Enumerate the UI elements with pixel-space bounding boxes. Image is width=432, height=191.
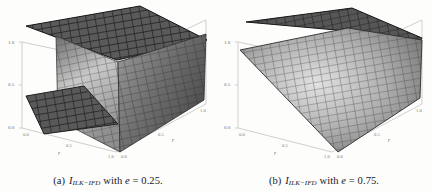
surface-plot-b: 1.0 0.5 0.0 0.0 0.5 1.0 r 0.0: [216, 0, 432, 160]
y-tick-label: 0.0: [121, 154, 127, 159]
x-axis-b: 0.0 0.5 1.0 r: [239, 132, 330, 159]
caption-tag: (b): [269, 175, 282, 186]
y-axis-label: r: [388, 137, 391, 143]
caption-with: with: [320, 175, 339, 186]
x-tick-label: 0.5: [66, 143, 72, 148]
caption-param-value: 0.25: [141, 175, 160, 186]
z-axis-b: 1.0 0.5 0.0: [224, 40, 238, 130]
plot-svg-b: 1.0 0.5 0.0 0.0 0.5 1.0 r 0.0: [216, 0, 432, 160]
y-tick-label: 0.5: [158, 132, 164, 137]
panel-caption-b: (b) IILK−IFD with e = 0.75.: [216, 175, 432, 187]
z-axis-a: 1.0 0.5 0.0: [8, 40, 22, 130]
caption-symbol: IILK−IFD: [68, 175, 101, 186]
x-axis-label: r: [274, 150, 277, 156]
x-tick-label: 0.0: [23, 132, 29, 137]
caption-with: with: [103, 175, 122, 186]
figure-row: 1.0 0.5 0.0 0.0 0.5 1.0 r 0.0: [0, 0, 432, 191]
z-tick-label: 0.5: [224, 82, 231, 87]
z-tick-label: 1.0: [8, 40, 15, 45]
z-tick-label: 1.0: [224, 40, 231, 45]
caption-period: .: [376, 175, 379, 186]
x-tick-label: 0.5: [282, 143, 288, 148]
figure-panel-a: 1.0 0.5 0.0 0.0 0.5 1.0 r 0.0: [0, 0, 216, 191]
caption-param-name: e: [125, 175, 130, 186]
y-tick-label: 0.0: [337, 154, 343, 159]
caption-param-name: e: [341, 175, 346, 186]
x-tick-label: 1.0: [324, 154, 330, 159]
caption-equals: =: [133, 175, 139, 186]
caption-period: .: [160, 175, 163, 186]
y-axis-label: r: [172, 137, 175, 143]
x-tick-label: 0.0: [239, 132, 245, 137]
caption-param-value: 0.75: [358, 175, 377, 186]
x-tick-label: 1.0: [108, 154, 114, 159]
y-tick-label: 0.5: [374, 132, 380, 137]
caption-tag: (a): [53, 175, 65, 186]
y-tick-label: 1.0: [416, 108, 422, 113]
panel-caption-a: (a) IILK−IFD with e = 0.25.: [0, 175, 216, 187]
surface-main-b: [240, 28, 422, 152]
figure-panel-b: 1.0 0.5 0.0 0.0 0.5 1.0 r 0.0: [216, 0, 432, 191]
x-axis-label: r: [58, 150, 61, 156]
z-tick-label: 0.5: [8, 82, 15, 87]
caption-symbol: IILK−IFD: [284, 175, 317, 186]
surface-plot-a: 1.0 0.5 0.0 0.0 0.5 1.0 r 0.0: [0, 0, 216, 160]
caption-equals: =: [349, 175, 355, 186]
y-tick-label: 1.0: [200, 108, 206, 113]
z-tick-label: 0.0: [224, 125, 231, 130]
plot-svg-a: 1.0 0.5 0.0 0.0 0.5 1.0 r 0.0: [0, 0, 216, 160]
z-tick-label: 0.0: [8, 125, 15, 130]
